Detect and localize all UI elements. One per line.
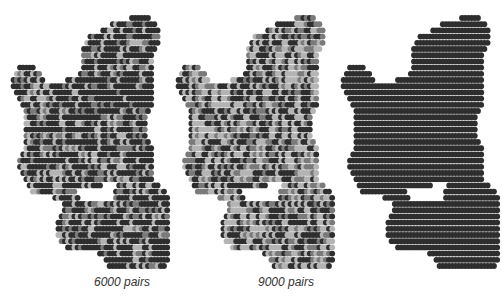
map-9000: [165, 0, 337, 280]
caption-9000-pairs: 9000 pairs: [226, 275, 346, 289]
caption-6000-pairs: 6000 pairs: [62, 275, 182, 289]
map-6000: [0, 0, 172, 280]
map-full: [330, 0, 502, 280]
